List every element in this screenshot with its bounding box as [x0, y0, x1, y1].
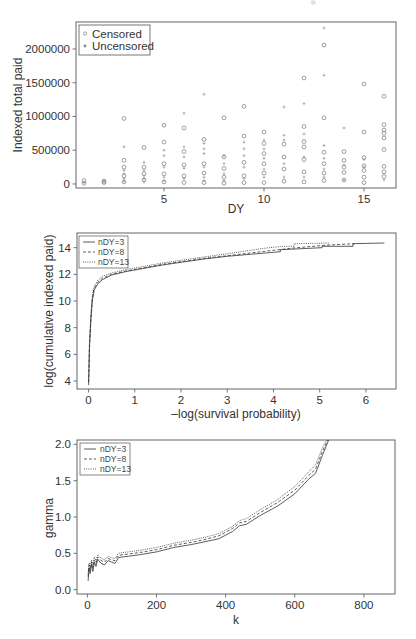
uncensored-marker-icon: [84, 45, 87, 48]
uncensored-point: [323, 144, 326, 147]
uncensored-point: [203, 142, 206, 145]
uncensored-point: [203, 176, 206, 179]
censored-point: [362, 130, 366, 134]
uncensored-point: [283, 134, 286, 137]
figure: ijk 510150500000100000015000002000000 DY…: [0, 0, 416, 639]
y-tick-label: 1000000: [25, 110, 70, 122]
x-tick-label: 0: [85, 394, 91, 406]
uncensored-point: [243, 166, 246, 169]
line-panel-gamma: 02004006008000.00.51.01.52.0 k gamma nDY…: [42, 438, 395, 627]
censored-point: [322, 150, 326, 154]
legend-ndy3: nDY=3: [98, 237, 124, 247]
legend-ndy13: nDY=13: [100, 464, 131, 474]
y-tick-label: 8: [65, 322, 71, 334]
censored-point: [202, 162, 206, 166]
censored-point: [322, 179, 326, 183]
uncensored-point: [343, 126, 346, 129]
legend: Censored Uncensored: [79, 25, 154, 55]
censored-point: [362, 82, 366, 86]
censored-point: [362, 181, 366, 185]
censored-point: [382, 94, 386, 98]
y-tick-label: 0.0: [55, 584, 71, 596]
uncensored-point: [323, 157, 326, 160]
censored-point: [122, 158, 126, 162]
censored-point: [322, 116, 326, 120]
uncensored-point: [383, 178, 386, 181]
censored-point: [262, 162, 266, 166]
censored-point: [342, 158, 346, 162]
censored-point: [162, 162, 166, 166]
censored-point: [382, 148, 386, 152]
series-ndy3: [89, 243, 385, 385]
censored-point: [282, 142, 286, 146]
uncensored-point: [223, 154, 226, 157]
uncensored-point: [223, 162, 226, 165]
line-panel-log-cumulative: 0123456468101214 –log(survival probabili…: [42, 233, 396, 421]
censored-point: [382, 123, 386, 127]
uncensored-point: [183, 155, 186, 158]
uncensored-point: [323, 27, 326, 30]
x-axis-title: –log(survival probability): [171, 407, 300, 421]
scatter-panel-indexed-total-paid: 510150500000100000015000002000000 DY Ind…: [11, 22, 396, 216]
censored-point: [282, 179, 286, 183]
censored-point: [342, 171, 346, 175]
y-tick-label: 4: [65, 375, 72, 387]
censored-point: [382, 175, 386, 179]
y-tick-label: 0: [64, 178, 70, 190]
uncensored-point: [203, 147, 206, 150]
uncensored-point: [123, 172, 126, 175]
censored-point: [282, 167, 286, 171]
legend-ndy8: nDY=8: [98, 247, 124, 257]
uncensored-point: [123, 145, 126, 148]
uncensored-point: [203, 93, 206, 96]
legend: nDY=3 nDY=8 nDY=13: [79, 236, 129, 268]
uncensored-point: [183, 112, 186, 115]
censored-point: [382, 136, 386, 140]
x-tick-label: 200: [147, 599, 166, 611]
uncensored-point: [263, 168, 266, 171]
censored-point: [322, 171, 326, 175]
y-tick-label: 1500000: [25, 77, 70, 89]
uncensored-point: [203, 179, 206, 182]
censored-point: [302, 145, 306, 149]
y-tick-label: 2.0: [55, 438, 71, 450]
y-tick-label: 12: [58, 268, 71, 280]
censored-point: [362, 175, 366, 179]
x-tick-label: 600: [285, 599, 304, 611]
censored-point: [262, 130, 266, 134]
censored-point: [182, 163, 186, 167]
y-tick-label: 2000000: [25, 43, 70, 55]
censored-point: [322, 43, 326, 47]
censored-point: [122, 117, 126, 121]
censored-point: [162, 140, 166, 144]
y-tick-label: 1.5: [55, 475, 71, 487]
uncensored-point: [183, 167, 186, 170]
censored-point: [302, 170, 306, 174]
x-tick-label: 0: [84, 599, 90, 611]
y-axis-title: Indexed total paid: [11, 58, 25, 153]
censored-point: [342, 150, 346, 154]
censored-point: [382, 165, 386, 169]
censored-point: [322, 162, 326, 166]
censored-point: [242, 181, 246, 185]
uncensored-point: [263, 147, 266, 150]
censored-point: [302, 140, 306, 144]
header-fragment: ijk: [311, 0, 316, 5]
x-tick-label: 800: [354, 599, 373, 611]
uncensored-point: [203, 152, 206, 155]
uncensored-point: [363, 166, 366, 169]
y-tick-label: 10: [58, 295, 71, 307]
uncensored-point: [183, 145, 186, 148]
uncensored-point: [163, 179, 166, 182]
uncensored-point: [143, 180, 146, 183]
uncensored-point: [243, 141, 246, 144]
uncensored-point: [283, 162, 286, 165]
censored-point: [182, 150, 186, 154]
censored-point: [242, 160, 246, 164]
x-tick-label: 400: [216, 599, 235, 611]
censored-point: [242, 134, 246, 138]
legend-uncensored: Uncensored: [92, 40, 154, 52]
uncensored-point: [283, 176, 286, 179]
censored-point: [142, 146, 146, 150]
censored-point: [262, 181, 266, 185]
